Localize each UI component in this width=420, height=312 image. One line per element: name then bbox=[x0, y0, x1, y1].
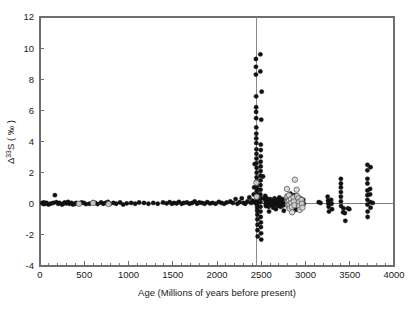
svg-text:Δ33S ( ‰ ): Δ33S ( ‰ ) bbox=[5, 120, 16, 164]
data-point-filled bbox=[258, 52, 262, 56]
data-point-filled bbox=[255, 170, 259, 174]
data-point-filled bbox=[254, 72, 258, 76]
data-point-filled bbox=[258, 209, 262, 213]
data-point-filled bbox=[365, 181, 369, 185]
data-point-filled bbox=[254, 132, 258, 136]
data-point-filled bbox=[146, 202, 150, 206]
y-tick-label: -2 bbox=[26, 229, 34, 240]
data-point-filled bbox=[343, 211, 347, 215]
data-point-filled bbox=[151, 201, 155, 205]
data-point-filled bbox=[365, 177, 369, 181]
y-tick-label: 10 bbox=[23, 43, 34, 54]
data-point-filled bbox=[343, 219, 347, 223]
data-point-open bbox=[90, 200, 95, 205]
y-tick-labels: -4-2024681012 bbox=[23, 11, 34, 271]
data-point-filled bbox=[114, 202, 118, 206]
data-point-filled bbox=[339, 199, 343, 203]
reference-lines bbox=[40, 17, 394, 266]
y-tick-label: 4 bbox=[29, 136, 34, 147]
x-tick-labels: 05001000150020002500300035004000 bbox=[37, 269, 404, 280]
data-point-open bbox=[254, 180, 259, 185]
data-point-filled bbox=[254, 147, 258, 151]
data-point-filled bbox=[330, 207, 334, 211]
data-point-filled bbox=[254, 116, 258, 120]
y-tick-label: 8 bbox=[29, 74, 34, 85]
data-point-filled bbox=[256, 234, 260, 238]
x-tick-label: 3000 bbox=[295, 269, 316, 280]
data-point-filled bbox=[347, 207, 351, 211]
data-point-filled bbox=[240, 196, 244, 200]
data-point-filled bbox=[341, 206, 345, 210]
data-point-filled bbox=[53, 193, 57, 197]
data-point-open bbox=[289, 210, 294, 215]
plot-frame bbox=[40, 17, 394, 266]
y-axis-title: Δ33S ( ‰ ) bbox=[5, 120, 16, 164]
x-tick-label: 2500 bbox=[251, 269, 272, 280]
x-tick-label: 1000 bbox=[118, 269, 139, 280]
data-point-filled bbox=[259, 215, 263, 219]
data-point-filled bbox=[129, 201, 133, 205]
data-point-filled bbox=[281, 203, 285, 207]
y-axis-open-paren: ( bbox=[5, 135, 16, 143]
data-point-filled bbox=[261, 174, 265, 178]
data-point-filled bbox=[125, 201, 129, 205]
y-tick-label: 0 bbox=[29, 198, 34, 209]
data-point-filled bbox=[254, 57, 258, 61]
x-tick-label: 500 bbox=[76, 269, 92, 280]
data-point-filled bbox=[259, 118, 263, 122]
data-point-filled bbox=[156, 202, 160, 206]
data-point-filled bbox=[339, 190, 343, 194]
chart-figure: -4-2024681012 05001000150020002500300035… bbox=[0, 0, 420, 312]
data-point-filled bbox=[368, 187, 372, 191]
x-tick-label: 0 bbox=[37, 269, 42, 280]
data-point-filled bbox=[237, 200, 241, 204]
data-point-filled bbox=[258, 160, 262, 164]
data-point-filled bbox=[254, 136, 258, 140]
data-point-filled bbox=[365, 209, 369, 213]
data-point-filled bbox=[258, 169, 262, 173]
x-tick-label: 4000 bbox=[383, 269, 404, 280]
y-tick-label: 2 bbox=[29, 167, 34, 178]
data-point-filled bbox=[254, 141, 258, 145]
data-point-filled bbox=[259, 220, 263, 224]
data-point-filled bbox=[254, 65, 258, 69]
y-tick-label: -4 bbox=[26, 260, 34, 271]
data-point-filled bbox=[254, 152, 258, 156]
data-point-filled bbox=[318, 201, 322, 205]
data-point-filled bbox=[339, 185, 343, 189]
data-point-filled bbox=[254, 105, 258, 109]
data-point-open bbox=[76, 201, 81, 206]
x-tick-label: 2000 bbox=[206, 269, 227, 280]
axis-frame bbox=[40, 17, 394, 266]
data-point-filled bbox=[258, 205, 262, 209]
data-point-filled bbox=[259, 142, 263, 146]
data-point-filled bbox=[368, 192, 372, 196]
data-point-filled bbox=[259, 225, 263, 229]
data-point-filled bbox=[329, 202, 333, 206]
x-tick-label: 1500 bbox=[162, 269, 183, 280]
data-point-filled bbox=[231, 201, 235, 205]
data-point-filled bbox=[254, 94, 258, 98]
data-point-filled bbox=[255, 166, 259, 170]
data-point-filled bbox=[368, 165, 372, 169]
data-point-filled bbox=[259, 148, 263, 152]
data-point-filled bbox=[325, 195, 329, 199]
data-point-filled bbox=[339, 177, 343, 181]
data-point-filled bbox=[254, 156, 258, 160]
data-point-filled bbox=[258, 188, 262, 192]
data-point-filled bbox=[255, 228, 259, 232]
data-point-filled bbox=[258, 164, 262, 168]
data-point-filled bbox=[258, 69, 262, 73]
data-points-open bbox=[76, 177, 305, 215]
data-point-open bbox=[292, 177, 297, 182]
y-axis-permil-symbol: ‰ bbox=[5, 125, 16, 135]
data-point-filled bbox=[368, 205, 372, 209]
data-point-filled bbox=[254, 125, 258, 129]
data-point-filled bbox=[371, 201, 375, 205]
y-tick-marks bbox=[40, 17, 44, 266]
data-point-filled bbox=[260, 90, 264, 94]
y-tick-label: 12 bbox=[23, 11, 34, 22]
data-point-filled bbox=[258, 200, 262, 204]
data-point-filled bbox=[252, 185, 256, 189]
data-points-filled bbox=[40, 52, 375, 241]
